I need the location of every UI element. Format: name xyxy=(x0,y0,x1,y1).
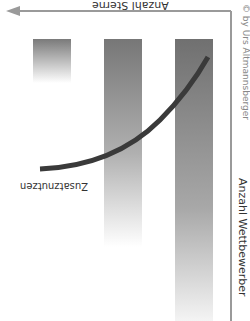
diagram: Anzahl Sterne Zusatznutzen Anzahl Wettbe… xyxy=(0,0,250,321)
bar-2 xyxy=(104,39,142,247)
copyright-text: © by Urs Altmannsberger xyxy=(241,4,250,144)
x-axis-label: Anzahl Sterne xyxy=(92,0,169,12)
y-axis-label: Anzahl Wettbewerber xyxy=(236,178,249,318)
curve-label: Zusatznutzen xyxy=(20,181,88,192)
bar-1 xyxy=(33,39,71,83)
diagram-graphics xyxy=(0,0,250,321)
arrow-left-icon xyxy=(6,6,20,16)
